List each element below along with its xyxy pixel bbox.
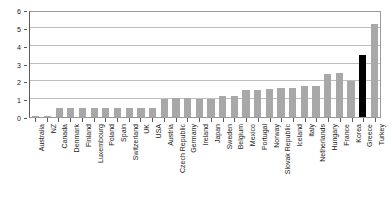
bar-cell	[310, 12, 322, 117]
bar-cell	[333, 12, 345, 117]
bar-nz	[44, 116, 51, 117]
x-tick-cell: Czech Republic	[170, 122, 182, 197]
bar-belgium	[231, 96, 238, 117]
bar-cell	[193, 12, 205, 117]
x-tick-cell: Sweden	[217, 122, 229, 197]
y-tick-label-4: 4	[17, 43, 21, 50]
y-tick-mark-6	[24, 11, 27, 12]
x-tick-mark	[105, 118, 106, 122]
x-tick-cell: UK	[135, 122, 147, 197]
bar-luxembourg	[91, 108, 98, 117]
bar-turkey	[371, 24, 378, 117]
x-tick-cell: Italy	[299, 122, 311, 197]
x-tick-mark	[281, 118, 282, 122]
x-tick-mark	[258, 118, 259, 122]
bar-cell	[357, 12, 369, 117]
x-tick-mark	[328, 118, 329, 122]
bar-cell	[65, 12, 77, 117]
x-tick-cell: Finland	[76, 122, 88, 197]
x-tick-mark	[316, 118, 317, 122]
bar-korea	[347, 81, 354, 117]
x-tick-cell: Turkey	[369, 122, 381, 197]
bar-cell	[345, 12, 357, 117]
x-tick-mark	[363, 118, 364, 122]
bar-cell	[252, 12, 264, 117]
x-tick-cell: Hungary	[322, 122, 334, 197]
bar-greece	[359, 55, 366, 117]
bar-iceland	[289, 88, 296, 117]
bar-cell	[42, 12, 54, 117]
bar-cell	[135, 12, 147, 117]
x-tick-mark	[82, 118, 83, 122]
bar-mexico	[242, 90, 249, 117]
x-axis-labels: AustraliaNZCanadaDenmarkFinlandLuxembour…	[29, 122, 381, 197]
x-tick-cell: Ireland	[193, 122, 205, 197]
x-tick-mark	[152, 118, 153, 122]
x-tick-cell: Australia	[29, 122, 41, 197]
bar-denmark	[67, 108, 74, 117]
bar-sweden	[219, 96, 226, 117]
x-tick-cell: Japan	[205, 122, 217, 197]
x-tick-mark	[246, 118, 247, 122]
x-tick-mark	[305, 118, 306, 122]
bar-cell	[77, 12, 89, 117]
x-tick-cell: Iceland	[287, 122, 299, 197]
x-tick-cell: Luxembourg	[88, 122, 100, 197]
x-tick-mark	[58, 118, 59, 122]
bar-norway	[266, 89, 273, 117]
bar-finland	[79, 108, 86, 117]
bar-cell	[263, 12, 275, 117]
bar-cell	[88, 12, 100, 117]
x-tick-cell: NZ	[41, 122, 53, 197]
x-tick-mark	[293, 118, 294, 122]
x-tick-cell: Denmark	[64, 122, 76, 197]
bar-austria	[161, 99, 168, 117]
x-tick-cell: Greece	[358, 122, 370, 197]
x-tick-cell: Germany	[182, 122, 194, 197]
bar-italy	[301, 86, 308, 117]
x-tick-mark	[340, 118, 341, 122]
bar-germany	[184, 98, 191, 117]
x-tick-cell: Mexico	[240, 122, 252, 197]
bar-cell	[240, 12, 252, 117]
bar-cell	[158, 12, 170, 117]
bar-portugal	[254, 90, 261, 117]
bar-cell	[100, 12, 112, 117]
x-tick-cell: Austria	[158, 122, 170, 197]
x-tick-mark	[199, 118, 200, 122]
bar-cell	[147, 12, 159, 117]
bar-cell	[112, 12, 124, 117]
x-tick-cell: France	[334, 122, 346, 197]
x-tick-cell: Canada	[52, 122, 64, 197]
x-tick-mark	[234, 118, 235, 122]
bar-spain	[114, 108, 121, 117]
x-tick-mark	[94, 118, 95, 122]
y-tick-mark-3	[24, 65, 27, 66]
bar-cell	[275, 12, 287, 117]
bar-cell	[322, 12, 334, 117]
bar-cell	[205, 12, 217, 117]
bar-ireland	[196, 99, 203, 117]
x-tick-mark	[35, 118, 36, 122]
bar-poland	[102, 108, 109, 117]
bar-series	[30, 12, 380, 117]
y-tick-label-0: 0	[17, 115, 21, 122]
x-tick-mark	[47, 118, 48, 122]
chart-figure: 0123456 AustraliaNZCanadaDenmarkFinlandL…	[0, 0, 392, 197]
y-tick-label-2: 2	[17, 79, 21, 86]
y-tick-label-3: 3	[17, 61, 21, 68]
x-tick-cell: USA	[146, 122, 158, 197]
x-tick-mark	[375, 118, 376, 122]
bar-cell	[228, 12, 240, 117]
x-tick-mark	[270, 118, 271, 122]
y-axis: 0123456	[0, 0, 29, 130]
x-tick-mark	[223, 118, 224, 122]
x-tick-cell: Netherlands	[311, 122, 323, 197]
x-tick-cell: Slovak Republic	[275, 122, 287, 197]
bar-cell	[30, 12, 42, 117]
bar-usa	[149, 108, 156, 117]
y-tick-mark-0	[24, 118, 27, 119]
x-tick-mark	[129, 118, 130, 122]
x-tick-mark	[187, 118, 188, 122]
x-tick-mark	[211, 118, 212, 122]
